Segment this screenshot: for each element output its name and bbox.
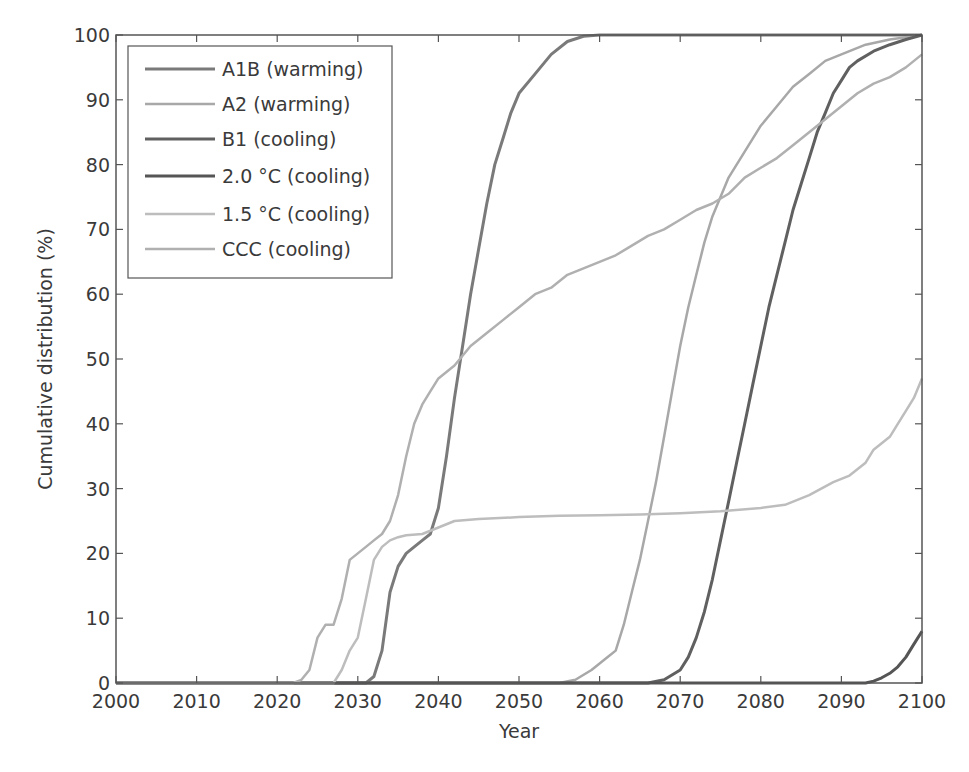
y-tick-label: 30: [86, 478, 110, 500]
legend-label: B1 (cooling): [222, 128, 336, 150]
x-axis-label: Year: [498, 720, 539, 742]
x-tick-label: 2090: [817, 690, 865, 712]
y-tick-label: 20: [86, 542, 110, 564]
x-tick-label: 2030: [334, 690, 382, 712]
series-line-4: [116, 378, 922, 683]
x-tick-label: 2070: [656, 690, 704, 712]
x-tick-label: 2050: [495, 690, 543, 712]
y-axis-label: Cumulative distribution (%): [34, 228, 56, 490]
y-tick-label: 70: [86, 218, 110, 240]
legend-label: 2.0 °C (cooling): [222, 165, 370, 187]
y-tick-label: 40: [86, 413, 110, 435]
x-tick-label: 2080: [737, 690, 785, 712]
x-tick-label: 2100: [898, 690, 946, 712]
legend-label: 1.5 °C (cooling): [222, 203, 370, 225]
x-tick-label: 2010: [172, 690, 220, 712]
y-tick-label: 60: [86, 283, 110, 305]
legend-label: A2 (warming): [222, 93, 351, 115]
y-tick-label: 80: [86, 154, 110, 176]
legend-label: CCC (cooling): [222, 238, 351, 260]
y-tick-label: 50: [86, 348, 110, 370]
y-tick-label: 100: [74, 24, 110, 46]
series-line-3: [116, 631, 922, 683]
x-tick-label: 2040: [414, 690, 462, 712]
y-tick-label: 0: [98, 672, 110, 694]
x-tick-label: 2020: [253, 690, 301, 712]
legend: A1B (warming)A2 (warming)B1 (cooling)2.0…: [128, 46, 392, 278]
x-tick-label: 2060: [575, 690, 623, 712]
cumulative-distribution-chart: 2000201020202030204020502060207020802090…: [0, 0, 969, 772]
y-tick-label: 10: [86, 607, 110, 629]
legend-label: A1B (warming): [222, 58, 364, 80]
y-tick-label: 90: [86, 89, 110, 111]
